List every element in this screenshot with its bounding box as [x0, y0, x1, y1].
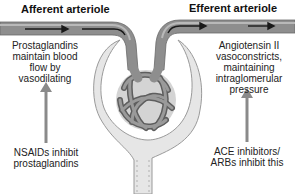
afferent-arteriole-title: Afferent arteriole — [21, 4, 131, 15]
nsaid-note: NSAIDs inhibit prostaglandins — [6, 147, 86, 169]
glomerulus — [116, 68, 176, 130]
ace-arrow — [241, 88, 253, 142]
prostaglandin-note: Prostaglandins maintain blood flow by va… — [4, 40, 86, 84]
efferent-arteriole-title: Efferent arteriole — [189, 3, 295, 14]
angiotensin-note: Angiotensin II vasoconstricts, maintaini… — [206, 40, 292, 95]
ace-inhibitor-note: ACE inhibitors/ ARBs inhibit this — [206, 146, 288, 168]
nsaid-arrow — [40, 82, 52, 143]
